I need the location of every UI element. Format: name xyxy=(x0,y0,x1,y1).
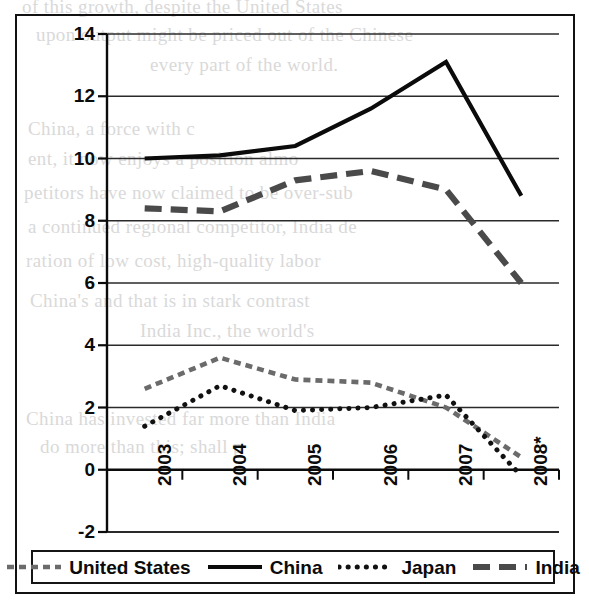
legend-label: Japan xyxy=(401,558,456,577)
y-axis-tick-label: 12 xyxy=(51,86,95,105)
legend-entry-united-states: United States xyxy=(6,558,190,577)
legend-entry-china: China xyxy=(207,558,323,577)
y-axis-tick-label: 0 xyxy=(51,460,95,479)
legend-entry-japan: Japan xyxy=(338,558,456,577)
y-axis-tick-label: -2 xyxy=(51,522,95,541)
plot-area: 14121086420-2 200320042005200620072008* xyxy=(17,16,577,536)
short-dash-swatch xyxy=(6,560,62,574)
legend-entry-india: India xyxy=(472,558,579,577)
dotted-line-swatch xyxy=(338,560,394,574)
y-axis-tick-label: 14 xyxy=(51,24,95,43)
legend-label: India xyxy=(535,558,579,577)
legend-label: China xyxy=(270,558,323,577)
x-axis-tick-label: 2008* xyxy=(531,436,550,486)
x-axis-tick-label: 2004 xyxy=(230,443,249,485)
line-chart xyxy=(17,16,577,536)
x-axis-tick-label: 2006 xyxy=(381,443,400,485)
y-axis-tick-label: 8 xyxy=(51,211,95,230)
solid-line-swatch xyxy=(207,560,263,574)
y-axis-tick-label: 4 xyxy=(51,335,95,354)
legend-label: United States xyxy=(69,558,190,577)
x-axis-tick-label: 2003 xyxy=(155,443,174,485)
chart-figure-frame: 14121086420-2 200320042005200620072008* … xyxy=(15,14,575,594)
chart-legend: United StatesChinaJapanIndia xyxy=(31,550,555,584)
y-axis-tick-label: 10 xyxy=(51,149,95,168)
y-axis-tick-label: 2 xyxy=(51,398,95,417)
x-axis-tick-label: 2007 xyxy=(456,443,475,485)
series-line-india xyxy=(145,171,522,283)
x-axis-tick-label: 2005 xyxy=(305,443,324,485)
y-axis-tick-label: 6 xyxy=(51,273,95,292)
long-dash-swatch xyxy=(472,560,528,574)
